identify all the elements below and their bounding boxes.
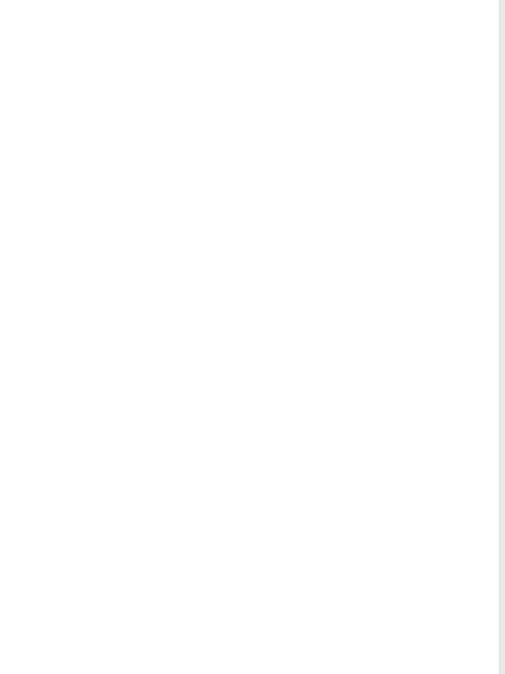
figure-canvas (0, 0, 505, 674)
page-edge (499, 0, 505, 674)
